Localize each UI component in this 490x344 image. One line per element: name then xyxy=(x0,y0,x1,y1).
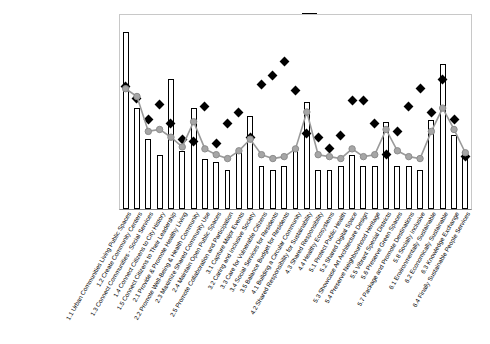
impact-marker xyxy=(292,146,298,152)
impact-marker xyxy=(213,151,219,157)
chart-root: Strategic Gap Risk Impact of Initiatives… xyxy=(0,0,490,344)
x-axis-labels: 1.1 Urban Communities Living Public Spac… xyxy=(119,211,472,336)
impact-marker xyxy=(326,153,332,159)
impact-marker xyxy=(145,128,151,134)
impact-marker xyxy=(258,151,264,157)
impact-marker xyxy=(315,151,321,157)
impact-marker xyxy=(168,134,174,140)
impact-marker xyxy=(224,155,230,161)
impact-marker xyxy=(190,119,196,125)
impact-marker xyxy=(360,153,366,159)
impact-marker xyxy=(270,155,276,161)
impact-marker xyxy=(394,148,400,154)
impact-marker xyxy=(122,86,128,92)
impact-marker xyxy=(372,151,378,157)
impact-marker xyxy=(383,126,389,132)
impact-marker xyxy=(304,109,310,115)
impact-marker xyxy=(451,126,457,132)
impact-marker xyxy=(439,105,445,111)
impact-marker xyxy=(134,93,140,99)
plot-area xyxy=(119,14,472,210)
impact-marker xyxy=(428,128,434,134)
impact-marker xyxy=(179,144,185,150)
impact-marker xyxy=(236,148,242,154)
impact-marker xyxy=(247,136,253,142)
impact-line-series xyxy=(120,15,471,209)
impact-marker xyxy=(281,153,287,159)
impact-marker xyxy=(156,126,162,132)
impact-marker xyxy=(462,150,468,156)
impact-marker xyxy=(202,146,208,152)
impact-marker xyxy=(417,155,423,161)
impact-marker xyxy=(338,155,344,161)
impact-marker xyxy=(406,153,412,159)
impact-marker xyxy=(349,146,355,152)
